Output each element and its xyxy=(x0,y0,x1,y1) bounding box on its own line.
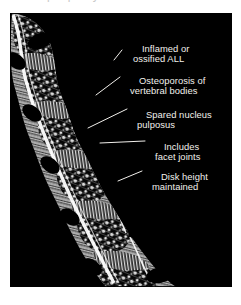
annotation-line-2: maintained xyxy=(145,182,208,193)
annotation-line-1: Spared nucleus xyxy=(146,109,212,120)
annotation-line-2: vertebral bodies xyxy=(123,86,205,97)
annotation-disk-height-maintained: Disk heightmaintained xyxy=(145,161,208,214)
cropped-caption-text: periphery xyxy=(47,0,99,2)
annotation-line-1: Includes xyxy=(164,141,199,152)
annotation-line-2: ossified ALL xyxy=(126,54,189,65)
figure-root: periphery xyxy=(0,0,241,305)
illustration-plate: Inflamed orossified ALL Osteoporosis ofv… xyxy=(10,13,232,287)
cropped-caption-strip: periphery xyxy=(0,0,241,11)
annotation-line-1: Inflamed or xyxy=(142,43,189,54)
annotation-line-2: pulposus xyxy=(130,120,212,131)
annotation-line-1: Osteoporosis of xyxy=(139,75,205,86)
annotation-line-1: Disk height xyxy=(161,171,208,182)
